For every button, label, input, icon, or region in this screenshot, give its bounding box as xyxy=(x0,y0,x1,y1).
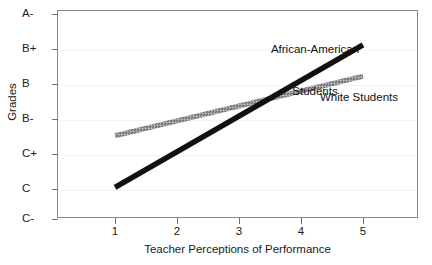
y-axis-tick xyxy=(52,14,58,15)
annotation-aa-line1: African-American xyxy=(249,42,381,56)
y-axis-tick-label: C- xyxy=(22,213,52,225)
x-axis-tick xyxy=(239,218,240,224)
y-axis-tick xyxy=(52,154,58,155)
y-axis-tick xyxy=(52,189,58,190)
y-axis-tick-label: C xyxy=(22,183,52,195)
x-axis-tick xyxy=(115,218,116,224)
x-axis-tick-label: 2 xyxy=(162,226,192,238)
x-axis-tick-label: 3 xyxy=(224,226,254,238)
x-axis-title: Teacher Perceptions of Performance xyxy=(57,243,418,255)
x-axis-tick-label: 1 xyxy=(100,226,130,238)
chart-figure: A-B+BB-C+CC- Grades 12345 Teacher Percep… xyxy=(0,0,432,265)
gridline xyxy=(58,190,417,191)
y-axis-tick-label: C+ xyxy=(22,148,52,160)
y-axis-tick-label: A- xyxy=(22,8,52,20)
y-axis-tick xyxy=(52,49,58,50)
annotation-white-students: White Students xyxy=(320,90,398,104)
y-axis-tick-labels: A-B+BB-C+CC- xyxy=(20,0,52,265)
x-axis-tick xyxy=(301,218,302,224)
gridline xyxy=(58,155,417,156)
y-axis-tick-label: B xyxy=(22,78,52,90)
y-axis-tick xyxy=(52,84,58,85)
y-axis-tick xyxy=(52,219,58,220)
y-axis-tick-label: B- xyxy=(22,113,52,125)
y-axis-tick xyxy=(52,119,58,120)
x-axis-tick-label: 5 xyxy=(348,226,378,238)
annotation-african-american-students: African-American Students xyxy=(249,14,381,126)
y-axis-title: Grades xyxy=(6,72,18,132)
x-axis-tick xyxy=(363,218,364,224)
y-axis-tick-label: B+ xyxy=(22,43,52,55)
x-axis-tick xyxy=(177,218,178,224)
x-axis-tick-label: 4 xyxy=(286,226,316,238)
